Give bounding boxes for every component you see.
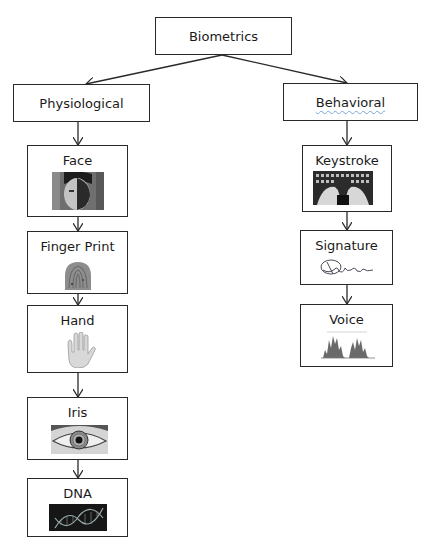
physiological-node: Physiological (13, 84, 150, 122)
fingerprint-icon (63, 260, 93, 290)
voice-node: Voice (300, 304, 393, 367)
signature-node: Signature (300, 230, 393, 285)
hand-node: Hand (27, 305, 128, 373)
signature-icon (319, 258, 377, 278)
behavioral-label: Behavioral (316, 96, 385, 109)
physiological-label: Physiological (39, 97, 123, 110)
face-label: Face (63, 154, 92, 167)
voice-label: Voice (329, 313, 364, 326)
biometrics-node: Biometrics (155, 17, 292, 55)
hand-label: Hand (60, 314, 94, 327)
face-photo-icon (52, 172, 104, 210)
keystroke-label: Keystroke (315, 154, 379, 167)
iris-label: Iris (68, 406, 88, 419)
fingerprint-node: Finger Print (27, 231, 128, 294)
voice-waveform-icon (319, 330, 377, 362)
fingerprint-label: Finger Print (40, 240, 114, 253)
face-node: Face (27, 145, 128, 217)
keyboard-hands-icon (313, 171, 373, 205)
eye-iris-icon (51, 425, 108, 454)
biometrics-label: Biometrics (189, 30, 258, 43)
iris-node: Iris (27, 397, 128, 460)
keystroke-node: Keystroke (302, 145, 392, 212)
behavioral-node: Behavioral (283, 83, 418, 121)
signature-label: Signature (315, 239, 378, 252)
dna-label: DNA (63, 487, 92, 500)
hand-icon (63, 332, 97, 368)
dna-node: DNA (27, 478, 128, 537)
dna-helix-icon (49, 504, 107, 531)
